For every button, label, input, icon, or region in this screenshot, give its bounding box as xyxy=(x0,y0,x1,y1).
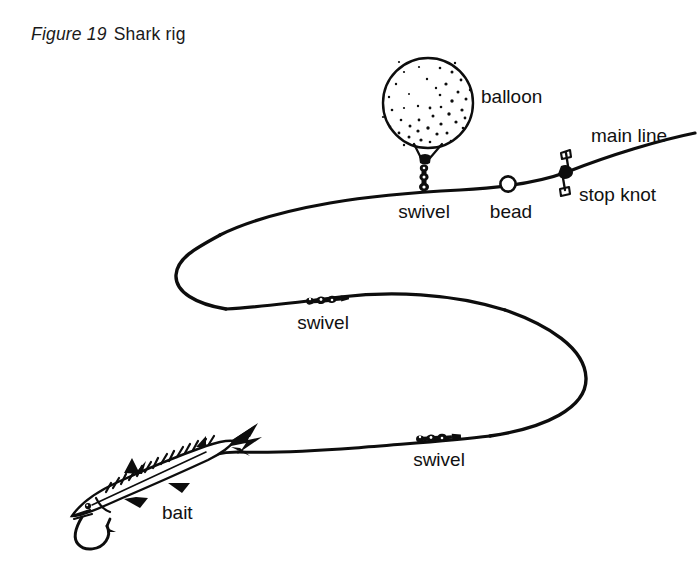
balloon-body xyxy=(383,58,473,148)
stop-knot-label: stop knot xyxy=(579,184,657,205)
hook-shank-and-bend xyxy=(75,517,109,549)
figure-page: Figure 19Shark rig xyxy=(0,0,697,562)
bait-fish-anal-fin xyxy=(168,483,190,493)
swivel-lower-label: swivel xyxy=(413,449,465,470)
swivel-middle-label: swivel xyxy=(297,312,349,333)
bait-fish-tail-upper-lobe xyxy=(234,423,258,439)
bait-fish-eye xyxy=(85,503,91,509)
balloon-group xyxy=(382,58,473,165)
bait-fish-pectoral-fin xyxy=(124,497,148,508)
stop-knot-tag-upper xyxy=(566,153,568,166)
stop-knot-flag-lower xyxy=(560,187,570,196)
hook-point xyxy=(107,519,110,526)
shark-rig-illustration: swivel bead stop knot xyxy=(0,0,697,562)
bait-fish-lateral-line xyxy=(92,452,206,505)
swivel-top-label: swivel xyxy=(398,201,450,222)
balloon-tie-knot xyxy=(419,154,431,165)
bait-fish-group: bait xyxy=(72,423,262,549)
stop-knot-body xyxy=(558,165,573,179)
bead-label: bead xyxy=(490,201,532,222)
bead-body xyxy=(500,176,515,191)
hook-group xyxy=(75,517,116,549)
balloon-label: balloon xyxy=(481,86,542,107)
middle-line-segment xyxy=(226,294,505,310)
rig-line-group xyxy=(176,133,695,462)
bait-fish-body xyxy=(72,441,234,516)
left-loop-segment xyxy=(176,235,226,309)
swivel-lower-group: swivel xyxy=(413,432,465,470)
main-line-label: main line xyxy=(591,125,667,146)
swivel-middle-links xyxy=(306,294,349,305)
bait-label: bait xyxy=(162,502,193,523)
right-loop-segment xyxy=(490,310,586,436)
